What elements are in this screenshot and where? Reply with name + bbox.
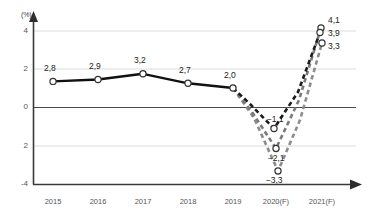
y-axis-unit-label: (%) xyxy=(21,11,31,18)
y-tick-4: 4 xyxy=(10,26,28,35)
x-tick-2017: 2017 xyxy=(119,197,167,206)
marker-2021-low xyxy=(319,40,325,46)
y-tick-neg4: -4 xyxy=(8,179,28,188)
x-tick-2016: 2016 xyxy=(74,197,122,206)
label-2020-lower: −3,3 xyxy=(266,175,282,185)
x-axis xyxy=(33,180,362,190)
marker-2017 xyxy=(140,71,146,77)
x-tick-2021f: 2021(F) xyxy=(296,197,348,206)
label-2020-upper: −1,1 xyxy=(267,114,283,124)
label-2020-middle: −2,1 xyxy=(268,153,284,163)
marker-2020-lower xyxy=(275,168,281,174)
marker-2020-upper xyxy=(271,125,277,131)
x-tick-2015: 2015 xyxy=(29,197,77,206)
marker-2015 xyxy=(50,78,56,84)
label-2015: 2,8 xyxy=(44,63,56,73)
label-2019: 2,0 xyxy=(224,70,236,80)
marker-2016 xyxy=(95,76,101,82)
marker-2018 xyxy=(185,80,191,86)
label-2017: 3,2 xyxy=(134,55,146,65)
chart-container: (%) 4 2 0 2 -4 2015 2016 2017 2018 2019 … xyxy=(0,0,369,219)
label-2021-mid: 3,9 xyxy=(328,28,340,38)
y-axis xyxy=(29,11,38,185)
label-2016: 2,9 xyxy=(89,61,101,71)
label-2021-top: 4,1 xyxy=(328,15,340,25)
y-tick-2: 2 xyxy=(10,64,28,73)
x-tick-2020f: 2020(F) xyxy=(250,197,302,206)
label-2018: 2,7 xyxy=(179,65,191,75)
marker-2021-mid xyxy=(317,29,323,35)
y-tick-neg2: 2 xyxy=(10,141,28,150)
x-tick-2018: 2018 xyxy=(164,197,212,206)
marker-2020-middle xyxy=(273,145,279,151)
marker-2019 xyxy=(230,85,236,91)
line-chart-plot xyxy=(0,0,369,219)
y-tick-0: 0 xyxy=(10,102,28,111)
data-point-markers xyxy=(50,25,325,174)
label-2021-low: 3,3 xyxy=(328,41,340,51)
gridlines xyxy=(33,31,356,146)
x-axis-arrow-icon xyxy=(350,180,362,190)
